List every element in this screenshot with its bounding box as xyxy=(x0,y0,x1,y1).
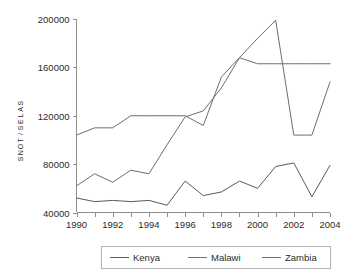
line-chart: 4000080000120000160000200000 19901992199… xyxy=(0,0,354,278)
series-line-zambia xyxy=(77,20,331,186)
y-tick-label: 200000 xyxy=(38,14,70,25)
y-axis-title-char: / xyxy=(17,133,24,135)
x-tick-label: 1990 xyxy=(66,219,87,230)
y-axis-title-char: E xyxy=(17,119,24,124)
legend-label-malawi: Malawi xyxy=(211,252,241,263)
x-axis-ticks xyxy=(78,213,331,217)
x-tick-label: 1994 xyxy=(138,219,159,230)
y-axis-title-char: S xyxy=(17,100,24,105)
y-axis-title-char: N xyxy=(17,150,24,155)
y-tick-label: 160000 xyxy=(38,62,70,73)
y-axis-title-char: A xyxy=(17,107,24,112)
x-tick-label: 1996 xyxy=(175,219,196,230)
legend-label-zambia: Zambia xyxy=(285,252,317,263)
series-lines xyxy=(77,20,331,205)
series-line-kenya xyxy=(77,163,331,205)
y-tick-label: 120000 xyxy=(38,111,70,122)
y-axis-title-char: S xyxy=(17,156,24,161)
y-axis-title: SALES/TONS xyxy=(17,100,24,161)
y-axis-title-char: T xyxy=(17,137,24,142)
chart-legend: KenyaMalawiZambia xyxy=(102,247,331,269)
x-tick-label: 1998 xyxy=(211,219,232,230)
y-axis-title-char: O xyxy=(17,143,24,149)
y-tick-label: 40000 xyxy=(43,208,69,219)
y-axis-tick-labels: 4000080000120000160000200000 xyxy=(38,14,70,219)
y-axis-ticks xyxy=(73,20,77,214)
chart-container: 4000080000120000160000200000 19901992199… xyxy=(0,0,354,278)
x-axis-tick-labels: 19901992199419961998200020022004 xyxy=(66,219,341,230)
x-tick-label: 2002 xyxy=(283,219,304,230)
legend-label-kenya: Kenya xyxy=(133,252,161,263)
y-axis-title-char: L xyxy=(17,113,24,117)
y-tick-label: 80000 xyxy=(43,159,69,170)
x-tick-label: 2004 xyxy=(319,219,340,230)
x-tick-label: 2000 xyxy=(247,219,268,230)
y-axis-title-char: S xyxy=(17,125,24,130)
plot-axes xyxy=(77,19,331,213)
x-tick-label: 1992 xyxy=(102,219,123,230)
